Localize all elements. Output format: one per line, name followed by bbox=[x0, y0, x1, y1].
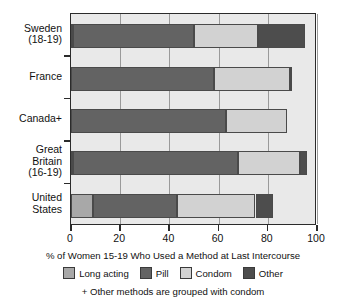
bar-segment-condom bbox=[194, 24, 258, 48]
x-axis-tick bbox=[119, 225, 121, 231]
y-axis-label: GreatBritain(16-19) bbox=[0, 144, 62, 179]
x-axis-title: % of Women 15-19 Who Used a Method at La… bbox=[0, 250, 346, 261]
plot-area bbox=[70, 13, 316, 225]
y-axis-label-line: France bbox=[0, 71, 62, 83]
legend-swatch bbox=[180, 267, 192, 279]
bar-segment-condom bbox=[214, 67, 290, 91]
legend-label: Other bbox=[259, 268, 283, 279]
bar-segment-pill bbox=[93, 194, 177, 218]
x-axis-tick-label: 80 bbox=[261, 232, 273, 244]
y-axis-label: Sweden(18-19) bbox=[0, 23, 62, 46]
y-axis-label-line: Canada+ bbox=[0, 113, 62, 125]
chart-figure: Sweden(18-19)FranceCanada+GreatBritain(1… bbox=[0, 0, 346, 301]
legend-swatch bbox=[243, 267, 255, 279]
y-axis-tick bbox=[64, 98, 70, 100]
legend-item: Long acting bbox=[63, 267, 129, 279]
legend-item: Other bbox=[243, 267, 283, 279]
bar-segment-condom bbox=[177, 194, 256, 218]
legend-label: Pill bbox=[156, 268, 169, 279]
bar-segment-other bbox=[256, 194, 273, 218]
bar-row bbox=[71, 151, 315, 175]
bar-segment-pill bbox=[71, 67, 214, 91]
bar-row bbox=[71, 24, 315, 48]
bars-layer bbox=[71, 14, 315, 224]
legend-label: Condom bbox=[196, 268, 232, 279]
footnote: + Other methods are grouped with condom bbox=[0, 286, 346, 297]
bar-segment-other bbox=[258, 24, 305, 48]
legend-item: Pill bbox=[140, 267, 169, 279]
y-axis-label: France bbox=[0, 71, 62, 83]
bar-segment-long-acting bbox=[71, 194, 93, 218]
bar-segment-pill bbox=[73, 151, 238, 175]
bar-segment-condom bbox=[226, 109, 288, 133]
y-axis-tick bbox=[64, 140, 70, 142]
bar-segment-other bbox=[300, 151, 307, 175]
x-axis-tick-label: 20 bbox=[113, 232, 125, 244]
x-axis-tick-label: 60 bbox=[212, 232, 224, 244]
y-axis-label-line: (18-19) bbox=[0, 34, 62, 46]
x-axis-tick bbox=[316, 225, 318, 231]
y-axis-tick bbox=[64, 183, 70, 185]
legend-swatch bbox=[63, 267, 75, 279]
y-axis-label: Canada+ bbox=[0, 113, 62, 125]
y-axis-tick bbox=[64, 55, 70, 57]
bar-segment-other bbox=[290, 67, 292, 91]
x-axis-tick bbox=[267, 225, 269, 231]
x-axis-tick bbox=[70, 225, 72, 231]
y-axis-label-line: States bbox=[0, 204, 62, 216]
y-axis-labels: Sweden(18-19)FranceCanada+GreatBritain(1… bbox=[0, 13, 66, 225]
bar-segment-pill bbox=[71, 109, 226, 133]
y-axis-label: UnitedStates bbox=[0, 192, 62, 215]
bar-row bbox=[71, 194, 315, 218]
legend-item: Condom bbox=[180, 267, 232, 279]
legend: Long actingPillCondomOther bbox=[0, 267, 346, 279]
legend-swatch bbox=[140, 267, 152, 279]
x-axis-tick-label: 100 bbox=[307, 232, 325, 244]
bar-row bbox=[71, 67, 315, 91]
bar-segment-condom bbox=[238, 151, 300, 175]
y-axis-label-line: Great bbox=[0, 144, 62, 156]
x-axis-tick-label: 40 bbox=[163, 232, 175, 244]
bar-segment-pill bbox=[73, 24, 194, 48]
y-axis-label-line: (16-19) bbox=[0, 167, 62, 179]
bar-row bbox=[71, 109, 315, 133]
x-axis-tick bbox=[218, 225, 220, 231]
legend-label: Long acting bbox=[79, 268, 129, 279]
x-axis-tick-label: 0 bbox=[67, 232, 73, 244]
gridline bbox=[317, 14, 318, 224]
x-axis-tick bbox=[168, 225, 170, 231]
x-axis: 020406080100 bbox=[70, 225, 316, 247]
